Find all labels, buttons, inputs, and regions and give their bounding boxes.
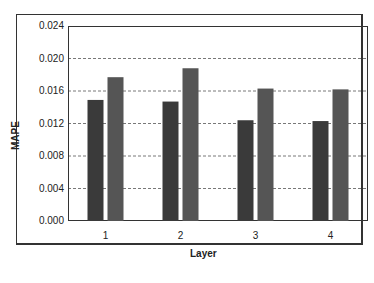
bar — [88, 100, 104, 221]
bar — [108, 77, 124, 221]
y-tick-label: 0.020 — [28, 53, 64, 64]
bar — [258, 89, 274, 221]
y-tick-label: 0.016 — [28, 85, 64, 96]
y-tick-label: 0.008 — [28, 150, 64, 161]
bar — [333, 89, 349, 221]
bar — [238, 120, 254, 221]
x-tick-label: 1 — [96, 230, 116, 241]
bar — [163, 102, 179, 221]
bar — [313, 121, 329, 221]
y-tick-label: 0.024 — [28, 20, 64, 31]
y-axis-label: MAPE — [10, 121, 21, 150]
y-tick-label: 0.000 — [28, 215, 64, 226]
y-tick-label: 0.012 — [28, 118, 64, 129]
plot-area — [68, 26, 374, 221]
x-axis-label: Layer — [190, 248, 217, 259]
y-tick-label: 0.004 — [28, 183, 64, 194]
x-tick-label: 2 — [171, 230, 191, 241]
bar — [183, 68, 199, 221]
x-tick-label: 3 — [246, 230, 266, 241]
x-tick-label: 4 — [321, 230, 341, 241]
